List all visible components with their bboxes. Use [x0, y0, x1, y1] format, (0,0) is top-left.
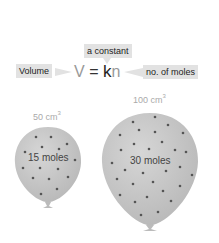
small-balloon [15, 127, 81, 208]
small-volume-exponent: 3 [58, 110, 61, 116]
small-balloon-volume: 50 cm3 [33, 112, 61, 122]
large-balloon-volume: 100 cm3 [133, 95, 166, 105]
large-balloon-moles: 30 moles [130, 155, 171, 166]
equation-volume-symbol: V [74, 63, 85, 80]
volume-pointer [55, 68, 72, 76]
small-volume-value: 50 cm [33, 112, 58, 122]
volume-label: Volume [16, 64, 52, 78]
equation-moles-symbol: n [111, 63, 120, 80]
large-volume-exponent: 3 [163, 93, 166, 99]
large-balloon [102, 113, 198, 231]
equation-equals: = [89, 63, 98, 80]
small-balloon-moles: 15 moles [28, 152, 69, 163]
moles-pointer [124, 68, 143, 77]
constant-label: a constant [84, 44, 132, 58]
large-volume-value: 100 cm [133, 95, 163, 105]
equation: V = kn [74, 62, 120, 82]
moles-label: no. of moles [143, 65, 198, 79]
